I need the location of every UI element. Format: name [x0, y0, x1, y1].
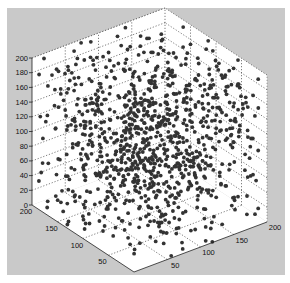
y-tick-label: 150 — [45, 224, 58, 233]
scatter3d-plot: 020406080100120140160180200 20015010050 … — [0, 0, 290, 283]
z-tick-label: 200 — [15, 54, 28, 63]
y-tick-label: 100 — [71, 241, 84, 250]
z-tick-label: 60 — [20, 156, 28, 165]
z-tick-label: 140 — [15, 98, 28, 107]
x-tick-label: 150 — [235, 236, 248, 245]
y-tick-label: 50 — [98, 257, 106, 266]
z-axis-ticks: 020406080100120140160180200 — [15, 54, 32, 210]
figure: 020406080100120140160180200 20015010050 … — [0, 0, 290, 283]
z-tick-label: 100 — [15, 127, 28, 136]
x-tick-label: 50 — [171, 261, 179, 270]
z-tick-label: 20 — [20, 186, 28, 195]
z-tick-label: 180 — [15, 68, 28, 77]
x-tick-label: 200 — [269, 223, 282, 232]
x-tick-label: 100 — [202, 248, 215, 257]
z-tick-label: 40 — [20, 171, 28, 180]
z-tick-label: 160 — [15, 83, 28, 92]
z-tick-label: 80 — [20, 142, 28, 151]
z-tick-label: 120 — [15, 112, 28, 121]
y-tick-label: 200 — [20, 207, 33, 216]
